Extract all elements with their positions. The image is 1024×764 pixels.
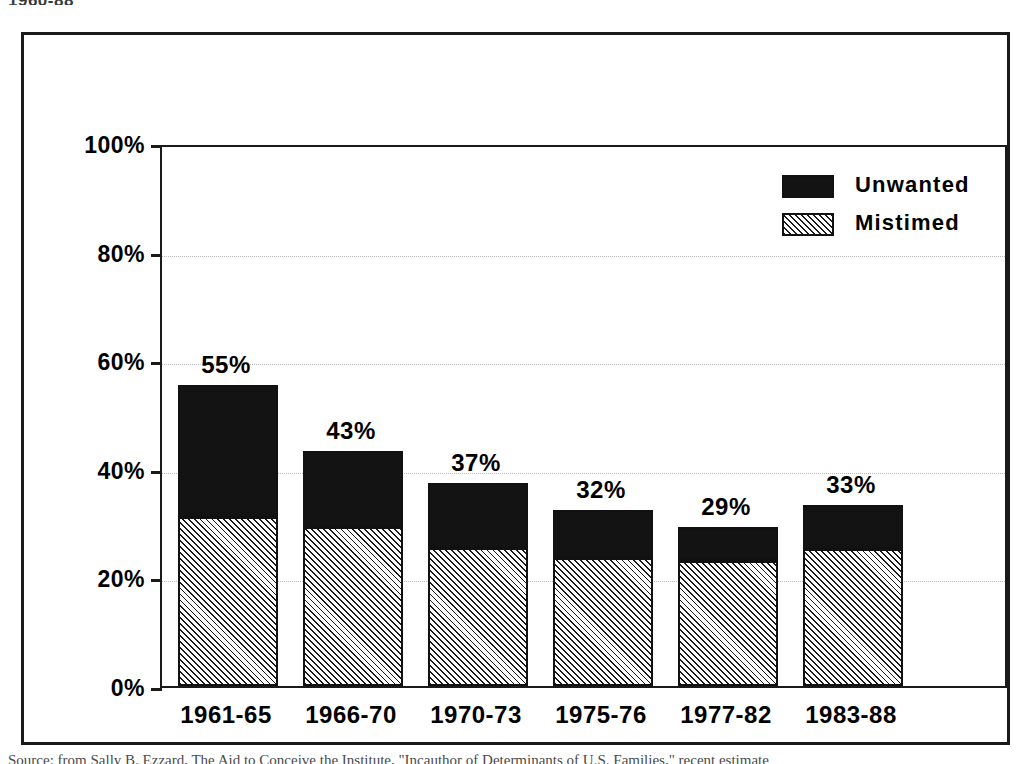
bar-segment-unwanted (428, 483, 528, 547)
bar-1966-70 (303, 453, 403, 686)
bar-1961-65 (178, 387, 278, 686)
y-axis-label: 80% (25, 240, 145, 267)
y-axis-label: 20% (25, 566, 145, 593)
y-axis-label: 100% (25, 132, 145, 159)
y-axis-tick (151, 579, 162, 582)
legend-label: Unwanted (855, 172, 970, 198)
bar-segment-mistimed (678, 561, 778, 686)
y-axis-tick (151, 254, 162, 257)
gridline (162, 256, 1005, 257)
legend-swatch-diagonal-hatch (782, 213, 834, 236)
bar-segment-unwanted (678, 527, 778, 562)
y-axis-tick (151, 145, 162, 148)
legend-swatch-solid-black (782, 175, 834, 198)
bar-segment-unwanted (178, 385, 278, 516)
bar-value-label: 29% (656, 493, 796, 521)
top-heading: 1960-88 (8, 0, 74, 5)
y-axis-label: 60% (25, 349, 145, 376)
bar-1970-73 (428, 485, 528, 686)
bar-value-label: 43% (281, 417, 421, 445)
bar-1983-88 (803, 507, 903, 686)
figure-caption: Source: from Sally B. Ezzard, The Aid to… (8, 752, 1018, 764)
bar-segment-mistimed (303, 527, 403, 686)
figure-frame: 0%20%40%60%80%100% 1961-651966-701970-73… (21, 32, 1010, 745)
bar-value-label: 33% (781, 471, 921, 499)
y-axis-label: 40% (25, 457, 145, 484)
bar-segment-unwanted (803, 505, 903, 549)
y-axis-tick (151, 471, 162, 474)
bar-segment-unwanted (553, 510, 653, 558)
bar-value-label: 32% (531, 476, 671, 504)
bar-value-label: 37% (406, 449, 546, 477)
bar-segment-mistimed (803, 549, 903, 686)
bar-segment-unwanted (303, 451, 403, 527)
y-axis-label: 0% (25, 675, 145, 702)
y-axis-tick (151, 688, 162, 691)
bar-segment-mistimed (178, 517, 278, 686)
bar-value-label: 55% (156, 351, 296, 379)
x-axis-label-1983-88: 1983-88 (771, 701, 931, 729)
bar-segment-mistimed (553, 558, 653, 686)
bar-segment-mistimed (428, 548, 528, 686)
bar-1975-76 (553, 512, 653, 686)
bar-1977-82 (678, 529, 778, 686)
legend-label: Mistimed (855, 210, 960, 236)
